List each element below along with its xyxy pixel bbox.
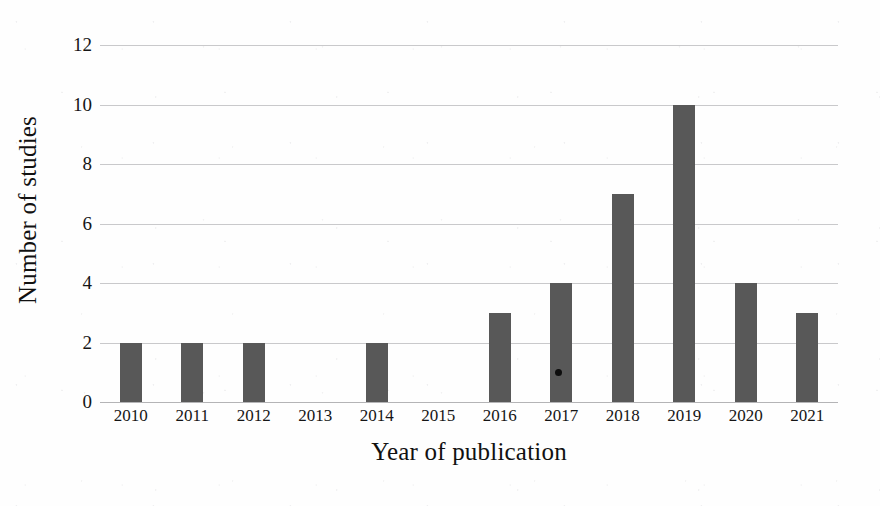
x-tick-label-2013: 2013: [298, 406, 332, 426]
y-axis-tick-labels: 024681012: [52, 45, 92, 402]
bar-2011: [181, 343, 203, 403]
x-tick-label-2018: 2018: [606, 406, 640, 426]
x-tick-label-2015: 2015: [421, 406, 455, 426]
x-tick-label-2012: 2012: [237, 406, 271, 426]
bar-2021: [796, 313, 818, 402]
x-axis-tick-labels: 2010201120122013201420152016201720182019…: [100, 406, 838, 432]
y-tick-label-10: 10: [73, 94, 92, 116]
x-axis-title: Year of publication: [100, 438, 838, 466]
x-tick-label-2010: 2010: [114, 406, 148, 426]
y-axis-title-text: Number of studies: [14, 116, 42, 304]
x-tick-label-2021: 2021: [790, 406, 824, 426]
x-tick-label-2017: 2017: [544, 406, 578, 426]
x-tick-label-2016: 2016: [483, 406, 517, 426]
y-axis-title: Number of studies: [0, 0, 56, 420]
y-tick-label-8: 8: [83, 153, 93, 175]
bar-2016: [489, 313, 511, 402]
bar-chart-figure: Number of studies 024681012 201020112012…: [0, 0, 880, 506]
x-tick-label-2019: 2019: [667, 406, 701, 426]
bar-2012: [243, 343, 265, 403]
y-tick-label-6: 6: [83, 213, 93, 235]
y-tick-label-0: 0: [83, 391, 93, 413]
x-tick-label-2011: 2011: [176, 406, 209, 426]
bar-2014: [366, 343, 388, 403]
y-tick-label-12: 12: [73, 34, 92, 56]
bar-2018: [612, 194, 634, 402]
y-tick-label-2: 2: [83, 332, 93, 354]
plot-area: [100, 45, 838, 402]
bar-2010: [120, 343, 142, 403]
y-tick-label-4: 4: [83, 272, 93, 294]
x-tick-label-2020: 2020: [729, 406, 763, 426]
bar-2017: [550, 283, 572, 402]
gridline-0: [100, 402, 838, 403]
bar-2019: [673, 105, 695, 403]
bars-group: [100, 45, 838, 402]
x-tick-label-2014: 2014: [360, 406, 394, 426]
bar-2020: [735, 283, 757, 402]
